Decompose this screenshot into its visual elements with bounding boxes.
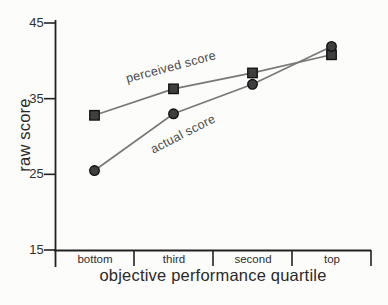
x-tick-label-third: third xyxy=(139,252,209,266)
marker-actual-score-third xyxy=(169,109,179,119)
series-line-actual-score xyxy=(95,46,332,170)
x-axis-title: objective performance quartile xyxy=(55,266,371,285)
marker-actual-score-bottom xyxy=(90,166,100,176)
marker-perceived-score-third xyxy=(169,84,179,94)
x-tick-label-top: top xyxy=(297,252,367,266)
y-axis-title: raw score xyxy=(15,98,34,171)
x-tick-label-bottom: bottom xyxy=(60,252,130,266)
marker-perceived-score-second xyxy=(248,68,258,78)
marker-perceived-score-bottom xyxy=(90,111,100,121)
y-tick-label-15: 15 xyxy=(6,242,44,258)
dunning-kruger-line-chart: 45 35 25 15 bottom third second top obje… xyxy=(0,0,388,305)
y-tick-label-45: 45 xyxy=(6,15,44,31)
marker-actual-score-second xyxy=(248,79,258,89)
x-tick-label-second: second xyxy=(218,252,288,266)
marker-actual-score-top xyxy=(327,42,337,52)
